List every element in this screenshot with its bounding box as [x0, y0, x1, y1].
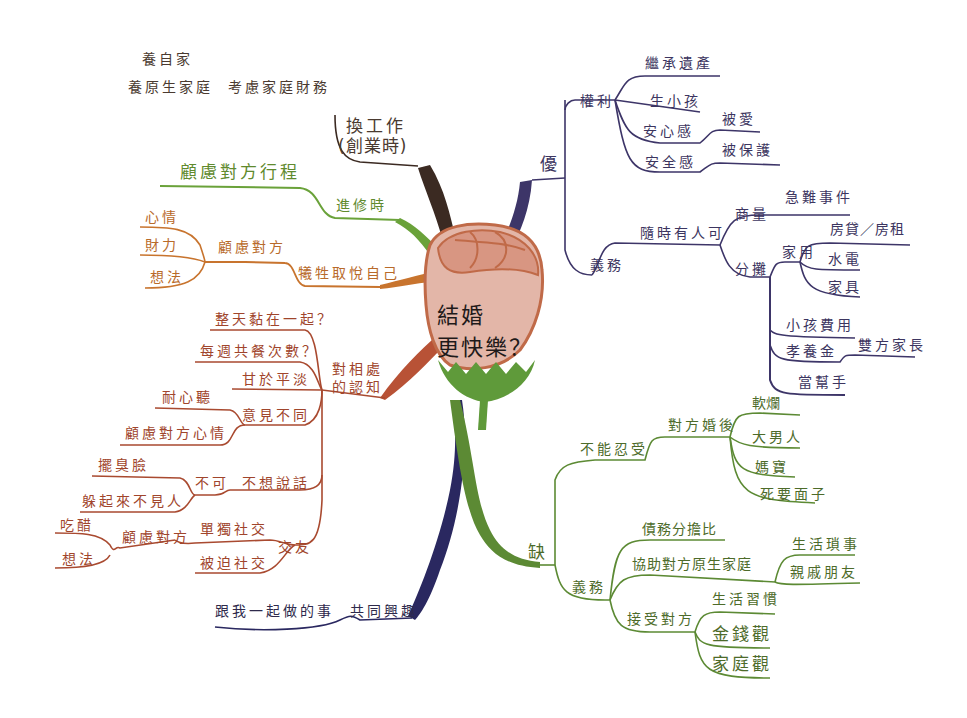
node-household: 家用: [782, 245, 816, 259]
node-intolerable: 不能忍受: [580, 442, 648, 456]
node-consider-mood: 顧慮對方心情: [125, 426, 227, 440]
node-support-origin-family: 養原生家庭: [128, 80, 213, 94]
node-utilities: 水電: [828, 252, 862, 266]
node-not-talk: 不想說話: [242, 476, 310, 490]
node-peace-of-mind: 安心感: [643, 124, 694, 138]
node-relatives-friends: 親戚朋友: [790, 565, 858, 579]
node-do-together: 跟我一起做的事: [215, 604, 334, 618]
node-inheritance: 繼承遺產: [645, 56, 713, 70]
node-jealous: 吃醋: [60, 518, 94, 532]
node-cons: 缺: [528, 544, 548, 561]
node-rights: 權利: [580, 94, 614, 108]
node-hide: 躲起來不見人: [82, 494, 184, 508]
node-consider-partner-2: 顧慮對方: [122, 530, 190, 544]
node-furniture: 家具: [828, 280, 862, 294]
node-mama-boy: 媽寶: [755, 460, 789, 474]
node-cognition: 對相處: [332, 362, 383, 376]
node-consider-partner: 顧慮對方: [218, 240, 286, 254]
node-friends: 交友: [278, 540, 312, 554]
node-forced-social: 被迫社交: [200, 556, 268, 570]
node-weekly-meals: 每週共餐次數？: [200, 344, 319, 358]
node-sacrifice-self: 犧牲取悅自己: [298, 266, 400, 280]
node-finance: 財力: [145, 238, 179, 252]
node-help-origin-family: 協助對方原生家庭: [632, 557, 752, 571]
node-be-loved: 被愛: [722, 112, 756, 126]
node-emergency: 急難事件: [785, 190, 853, 204]
node-family-values: 家庭觀: [712, 656, 772, 673]
node-work-line2: (創業時): [338, 138, 407, 155]
node-sulk: 擺臭臉: [98, 458, 149, 472]
node-partner-schedule: 顧慮對方行程: [180, 164, 300, 181]
central-topic: 結婚 更快樂？: [437, 300, 533, 364]
node-duties-pros: 義務: [590, 258, 624, 272]
node-content-plain: 甘於平淡: [242, 372, 310, 386]
node-filial-money: 孝養金: [786, 344, 837, 358]
node-lazy: 軟爛: [752, 396, 780, 410]
branch-cons: [450, 400, 540, 568]
node-save-face: 死要面子: [760, 487, 828, 501]
node-must-not: 不可: [195, 476, 229, 490]
node-solo-social: 單獨社交: [200, 522, 268, 536]
node-helper: 當幫手: [798, 375, 849, 389]
node-money-values: 金錢觀: [712, 626, 772, 643]
node-thoughts-2: 想法: [62, 552, 96, 566]
node-thoughts: 想法: [150, 270, 184, 284]
node-child-expenses: 小孩費用: [786, 318, 854, 332]
node-security: 安全感: [645, 155, 696, 169]
central-topic-line2: 更快樂？: [437, 332, 533, 364]
node-daily-chores: 生活瑣事: [792, 537, 860, 551]
node-study: 進修時: [336, 198, 387, 212]
node-habits: 生活習慣: [712, 592, 780, 606]
node-mortgage-rent: 房貸／房租: [830, 222, 905, 236]
node-debt-ratio: 債務分擔比: [642, 522, 717, 536]
node-listen-patiently: 耐心聽: [162, 390, 213, 404]
mind-map-canvas: 結婚 更快樂？ 換工作 (創業時) 考慮家庭財務 養自家 養原生家庭 進修時 顧…: [0, 0, 967, 718]
node-discuss: 商量: [735, 207, 769, 221]
node-together-all-day: 整天黏在一起？: [215, 312, 334, 326]
node-always-someone: 隨時有人可: [640, 226, 725, 240]
node-have-children: 生小孩: [650, 94, 701, 108]
node-pros: 優: [540, 156, 560, 173]
node-share: 分攤: [735, 262, 769, 276]
node-common-interest: 共同興趣: [350, 604, 418, 618]
node-disagree: 意見不同: [242, 408, 310, 422]
node-accept-partner: 接受對方: [627, 612, 695, 626]
node-after-marriage: 對方婚後: [668, 418, 736, 432]
node-family-finance: 考慮家庭財務: [228, 80, 330, 94]
node-duties-cons: 義務: [572, 580, 606, 594]
node-mood: 心情: [145, 210, 179, 224]
node-cognition-line2: 的認知: [332, 380, 383, 394]
node-work: 換工作: [346, 118, 406, 135]
node-support-own-family: 養自家: [142, 52, 193, 66]
node-chauvinist: 大男人: [752, 430, 803, 444]
central-topic-line1: 結婚: [437, 300, 533, 332]
node-be-protected: 被保護: [722, 143, 773, 157]
node-both-parents: 雙方家長: [858, 338, 926, 352]
